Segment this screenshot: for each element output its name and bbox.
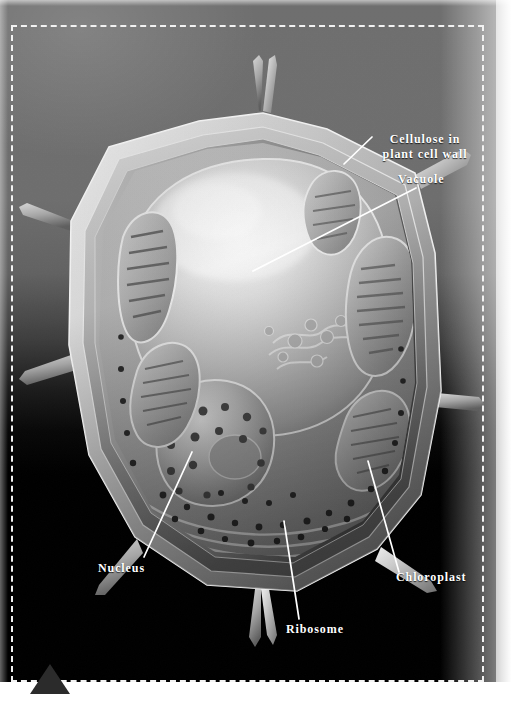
label-vacuole: Vacuole bbox=[398, 172, 490, 187]
screenshot-canvas: Cellulose in plant cell wall Vacuole Nuc… bbox=[0, 0, 518, 718]
label-ribosome: Ribosome bbox=[286, 622, 396, 637]
plate-edge-bottom bbox=[0, 682, 518, 718]
selection-handle-triangle-icon[interactable] bbox=[30, 664, 70, 694]
plate-edge-left bbox=[0, 0, 8, 718]
label-chloroplast: Chloroplast bbox=[396, 570, 506, 585]
plate-edge-top bbox=[0, 0, 518, 6]
label-cellulose-in-plant-cell-wall: Cellulose in plant cell wall bbox=[360, 132, 490, 162]
plate-edge-right bbox=[496, 0, 518, 718]
label-nucleus: Nucleus bbox=[98, 561, 202, 576]
